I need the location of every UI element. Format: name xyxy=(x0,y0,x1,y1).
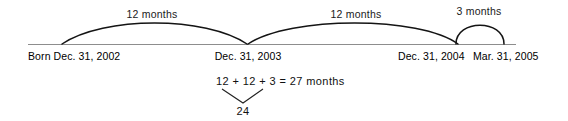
equation-text: 12 + 12 + 3 = 27 months xyxy=(216,76,345,87)
arc-span-1 xyxy=(62,23,247,44)
date-label-2003: Dec. 31, 2003 xyxy=(215,51,282,62)
equation-brace xyxy=(222,89,263,103)
date-label-2004: Dec. 31, 2004 xyxy=(398,51,465,62)
span-label-2: 12 months xyxy=(331,9,382,20)
arc-span-3 xyxy=(456,25,504,44)
date-label-born: Born Dec. 31, 2002 xyxy=(28,51,120,62)
equation-brace-result: 24 xyxy=(237,106,250,117)
date-label-2005: Mar. 31, 2005 xyxy=(473,51,539,62)
timeline-diagram: 12 months 12 months 3 months Born Dec. 3… xyxy=(0,0,568,121)
span-label-1: 12 months xyxy=(127,9,178,20)
arc-span-2 xyxy=(248,23,458,44)
span-label-3: 3 months xyxy=(457,6,502,17)
